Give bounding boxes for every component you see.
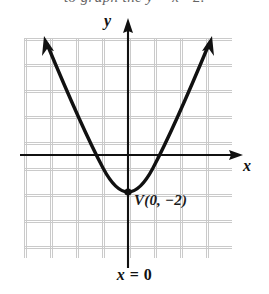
parabola-graph-figure: to graph the y = x - 2. y x V(0, −2) x =… bbox=[0, 0, 269, 294]
axis-symmetry-value: 0 bbox=[144, 266, 153, 283]
axis-symmetry-equals: = bbox=[125, 266, 144, 283]
y-axis bbox=[123, 18, 133, 268]
x-axis-label: x bbox=[243, 157, 251, 175]
vertex-coordinate-label: V(0, −2) bbox=[134, 192, 187, 209]
axis-of-symmetry-label: x = 0 bbox=[0, 266, 269, 284]
vertex-point-marker bbox=[124, 188, 131, 195]
x-axis bbox=[20, 150, 243, 160]
y-axis-label: y bbox=[104, 12, 111, 30]
graph-plot-area bbox=[0, 0, 269, 294]
axis-symmetry-variable: x bbox=[117, 266, 126, 283]
